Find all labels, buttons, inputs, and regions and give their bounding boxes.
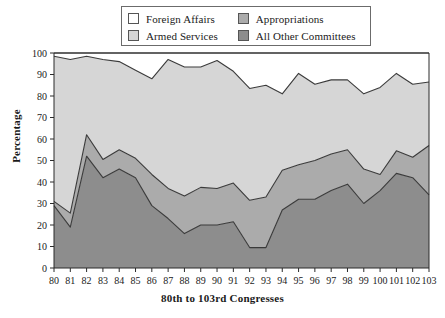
series-bands-group: [54, 53, 429, 268]
legend-item-armed-services: Armed Services: [128, 27, 238, 44]
plot-svg: 0102030405060708090100 80818283848586878…: [0, 0, 445, 318]
x-tick-group: 8081828384858687888990919293949596979899…: [49, 268, 437, 286]
x-tick-label: 81: [65, 275, 75, 286]
y-tick-label: 90: [37, 69, 47, 80]
legend-row-1: Foreign Affairs Appropriations: [128, 10, 364, 27]
x-tick-label: 87: [163, 275, 173, 286]
y-axis-title: Percentage: [10, 96, 22, 176]
legend-row-2: Armed Services All Other Committees: [128, 27, 364, 44]
legend-label-appropriations: Appropriations: [256, 13, 324, 25]
legend-label-armed-services: Armed Services: [146, 30, 218, 42]
x-tick-label: 95: [294, 275, 304, 286]
x-tick-label: 82: [82, 275, 92, 286]
chart-legend: Foreign Affairs Appropriations Armed Ser…: [121, 6, 371, 46]
x-tick-label: 102: [405, 275, 420, 286]
y-tick-label: 70: [37, 112, 47, 123]
x-tick-label: 85: [131, 275, 141, 286]
x-axis-title: 80th to 103rd Congresses: [0, 292, 445, 304]
x-tick-label: 86: [147, 275, 157, 286]
plot-area: 0102030405060708090100 80818283848586878…: [0, 0, 445, 318]
x-tick-label: 80: [49, 275, 59, 286]
legend-item-foreign-affairs: Foreign Affairs: [128, 10, 238, 27]
legend-swatch-appropriations: [238, 13, 249, 24]
x-tick-label: 91: [228, 275, 238, 286]
legend-swatch-armed-services: [128, 30, 139, 41]
x-tick-label: 98: [342, 275, 352, 286]
x-tick-label: 96: [310, 275, 320, 286]
x-tick-label: 88: [179, 275, 189, 286]
x-tick-label: 92: [245, 275, 255, 286]
x-tick-label: 94: [277, 275, 287, 286]
x-tick-label: 100: [373, 275, 388, 286]
y-tick-label: 80: [37, 91, 47, 102]
x-tick-label: 97: [326, 275, 336, 286]
stacked-area-chart: 0102030405060708090100 80818283848586878…: [0, 0, 445, 318]
x-tick-label: 101: [389, 275, 404, 286]
x-tick-label: 103: [422, 275, 437, 286]
x-tick-label: 93: [261, 275, 271, 286]
y-tick-label: 40: [37, 177, 47, 188]
y-tick-label: 100: [32, 48, 47, 59]
y-tick-label: 10: [37, 241, 47, 252]
y-tick-label: 30: [37, 198, 47, 209]
y-tick-label: 0: [42, 263, 47, 274]
y-tick-group: 0102030405060708090100: [32, 48, 54, 274]
legend-label-foreign-affairs: Foreign Affairs: [146, 13, 215, 25]
x-tick-label: 90: [212, 275, 222, 286]
y-tick-label: 60: [37, 134, 47, 145]
x-tick-label: 83: [98, 275, 108, 286]
legend-item-all-other-committees: All Other Committees: [238, 27, 364, 44]
y-tick-label: 50: [37, 155, 47, 166]
legend-label-all-other-committees: All Other Committees: [256, 30, 356, 42]
legend-item-appropriations: Appropriations: [238, 10, 364, 27]
legend-swatch-foreign-affairs: [128, 13, 139, 24]
x-tick-label: 89: [196, 275, 206, 286]
y-tick-label: 20: [37, 220, 47, 231]
x-tick-label: 84: [114, 275, 124, 286]
legend-swatch-all-other-committees: [238, 30, 249, 41]
x-tick-label: 99: [359, 275, 369, 286]
